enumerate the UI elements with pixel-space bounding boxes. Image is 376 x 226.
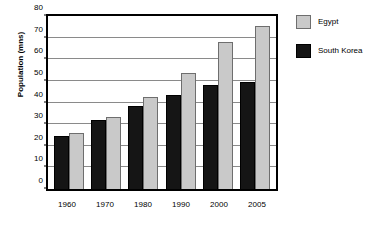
bar-group-1970 [87, 16, 124, 189]
bar-groups [48, 16, 276, 189]
legend-item-egypt: Egypt [296, 14, 376, 29]
legend-label-south-korea: South Korea [318, 46, 362, 55]
chart-figure: Population (mns) 01020304050607080 19601… [0, 0, 376, 226]
legend-label-egypt: Egypt [318, 17, 338, 26]
y-tick-mark-40 [44, 101, 48, 102]
bar-egypt-1990 [181, 73, 196, 189]
y-tick-label-50: 50 [34, 67, 43, 76]
bar-group-2000 [199, 16, 236, 189]
bar-south-korea-1980 [128, 106, 143, 189]
bar-group-1990 [162, 16, 199, 189]
y-tick-mark-50 [44, 79, 48, 80]
bar-south-korea-1990 [166, 95, 181, 189]
y-tick-mark-0 [44, 188, 48, 189]
bar-egypt-1970 [106, 117, 121, 189]
y-tick-mark-20 [44, 144, 48, 145]
x-tick-label-1980: 1980 [124, 193, 162, 213]
y-tick-mark-80 [44, 15, 48, 16]
bar-south-korea-1970 [91, 120, 106, 189]
y-tick-label-20: 20 [34, 132, 43, 141]
bar-egypt-1960 [69, 133, 84, 189]
legend-swatch-south-korea [296, 44, 311, 58]
bar-group-1980 [125, 16, 162, 189]
y-tick-label-10: 10 [34, 154, 43, 163]
x-tick-label-1990: 1990 [162, 193, 200, 213]
x-tick-label-2005: 2005 [238, 193, 276, 213]
x-axis-ticks: 196019701980199020002005 [46, 193, 278, 213]
y-tick-mark-70 [44, 36, 48, 37]
legend-swatch-egypt [296, 15, 311, 29]
x-tick-label-1960: 1960 [48, 193, 86, 213]
y-tick-label-80: 80 [34, 3, 43, 12]
y-tick-label-60: 60 [34, 46, 43, 55]
plot-area: 01020304050607080 [46, 14, 278, 191]
y-tick-label-70: 70 [34, 24, 43, 33]
bar-group-2005 [237, 16, 274, 189]
bar-egypt-2005 [255, 26, 270, 189]
y-axis-title: Population (mns) [16, 5, 25, 125]
chart-legend: EgyptSouth Korea [296, 14, 376, 72]
y-tick-label-0: 0 [39, 176, 43, 185]
y-tick-mark-60 [44, 58, 48, 59]
bar-egypt-2000 [218, 42, 233, 189]
y-tick-label-40: 40 [34, 89, 43, 98]
y-tick-mark-10 [44, 166, 48, 167]
bar-egypt-1980 [143, 97, 158, 189]
bar-group-1960 [50, 16, 87, 189]
y-tick-label-30: 30 [34, 111, 43, 120]
bar-south-korea-1960 [54, 136, 69, 189]
y-tick-mark-30 [44, 123, 48, 124]
bar-south-korea-2000 [203, 85, 218, 189]
bar-south-korea-2005 [240, 82, 255, 189]
plot-inner [48, 16, 276, 189]
legend-item-south-korea: South Korea [296, 43, 376, 58]
x-tick-label-1970: 1970 [86, 193, 124, 213]
x-tick-label-2000: 2000 [200, 193, 238, 213]
